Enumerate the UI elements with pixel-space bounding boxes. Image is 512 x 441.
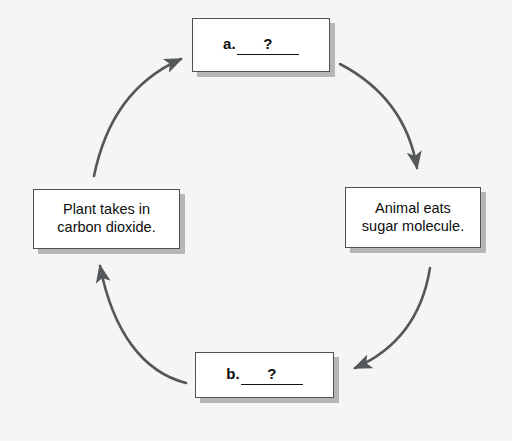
blank-marker-a: a. bbox=[223, 35, 236, 53]
node-animal-eats-sugar-label: Animal eats sugar molecule. bbox=[356, 200, 470, 235]
arrow-top-right bbox=[340, 64, 417, 168]
arrow-top-left bbox=[94, 59, 181, 176]
blank-answer-a: a. ? bbox=[223, 35, 299, 55]
arrow-bottom-right bbox=[355, 268, 430, 368]
node-a-blank[interactable]: a. ? bbox=[192, 18, 330, 72]
blank-answer-b: b. ? bbox=[226, 365, 303, 385]
diagram-canvas: a. ? Animal eats sugar molecule. b. ? Pl… bbox=[0, 0, 512, 441]
blank-field-a[interactable]: ? bbox=[237, 35, 299, 55]
blank-field-b[interactable]: ? bbox=[241, 365, 303, 385]
arrow-bottom-left bbox=[100, 266, 186, 383]
blank-marker-b: b. bbox=[226, 365, 240, 383]
node-plant-takes-in-carbon-dioxide[interactable]: Plant takes in carbon dioxide. bbox=[33, 189, 180, 249]
node-b-blank[interactable]: b. ? bbox=[195, 352, 334, 398]
node-plant-takes-in-carbon-dioxide-label: Plant takes in carbon dioxide. bbox=[51, 201, 161, 236]
node-animal-eats-sugar[interactable]: Animal eats sugar molecule. bbox=[345, 187, 481, 248]
